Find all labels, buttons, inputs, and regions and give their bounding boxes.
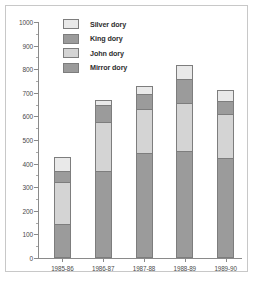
x-axis-tick-label: 1985-86 [51,265,73,272]
x-axis-line [38,258,242,259]
y-axis-tick-label: 200 [22,207,33,214]
y-axis-tick [34,164,38,165]
y-axis-tick [34,46,38,47]
bar-stack[interactable] [95,100,112,258]
y-axis-tick [34,116,38,117]
chart-legend: Silver doryKing doryJohn doryMirror dory [63,17,127,75]
legend-item-label: King dory [90,34,123,43]
legend-item-label: John dory [90,49,124,58]
y-axis-tick-label: 800 [22,66,33,73]
y-axis-minor-tick [36,152,38,153]
y-axis-minor-tick [36,175,38,176]
x-axis-tick [185,258,186,262]
x-axis-tick [144,258,145,262]
legend-item-label: Mirror dory [90,63,127,72]
y-axis-minor-tick [36,34,38,35]
x-axis-tick-label: 1986-87 [92,265,114,272]
y-axis-tick [34,140,38,141]
bar-segment[interactable] [136,153,153,258]
legend-swatch-icon [63,48,79,58]
legend-swatch-icon [63,34,79,44]
bar-segment[interactable] [54,224,71,258]
x-axis-tick-label: 1988-89 [174,265,196,272]
bar-segment[interactable] [54,182,71,223]
y-axis-minor-tick [36,199,38,200]
y-axis-tick [34,69,38,70]
y-axis-minor-tick [36,105,38,106]
bar-segment[interactable] [95,122,112,171]
bar-segment[interactable] [54,171,71,183]
bar-segment[interactable] [95,105,112,122]
y-axis-tick-label: 300 [22,184,33,191]
bar-segment[interactable] [217,90,234,101]
bar-segment[interactable] [217,101,234,114]
y-axis-tick-label: 700 [22,89,33,96]
y-axis-tick-label: 400 [22,160,33,167]
y-axis-tick [34,234,38,235]
legend-item-label: Silver dory [90,20,126,29]
y-axis-tick [34,211,38,212]
y-axis-minor-tick [36,246,38,247]
bar-stack[interactable] [136,86,153,258]
bar-segment[interactable] [176,65,193,79]
bar-segment[interactable] [136,94,153,108]
y-axis-line [38,22,39,258]
x-axis-tick [103,258,104,262]
bar-segment[interactable] [136,109,153,153]
y-axis-tick [34,187,38,188]
legend-item[interactable]: John dory [63,46,127,61]
bar-stack[interactable] [217,90,234,258]
legend-item[interactable]: Mirror dory [63,61,127,76]
bar-segment[interactable] [176,151,193,258]
y-axis-tick [34,22,38,23]
x-axis-tick [62,258,63,262]
y-axis-tick-label: 500 [22,137,33,144]
x-axis-tick-label: 1987-88 [133,265,155,272]
chart-frame: 01002003004005006007008009001000 1985-86… [5,5,248,272]
x-axis-tick-label: 1989-90 [214,265,236,272]
bar-stack[interactable] [54,157,71,258]
legend-item[interactable]: Silver dory [63,17,127,32]
y-axis-minor-tick [36,223,38,224]
y-axis-tick-label: 0 [29,255,33,262]
y-axis-tick-label: 1000 [19,19,33,26]
bar-stack[interactable] [176,65,193,258]
y-axis-tick-label: 100 [22,231,33,238]
legend-item[interactable]: King dory [63,32,127,47]
bar-segment[interactable] [176,103,193,150]
y-axis-minor-tick [36,81,38,82]
bar-segment[interactable] [217,114,234,158]
legend-swatch-icon [63,63,79,73]
bar-segment[interactable] [136,86,153,94]
bar-segment[interactable] [176,79,193,103]
y-axis-minor-tick [36,57,38,58]
bar-segment[interactable] [95,171,112,258]
legend-swatch-icon [63,19,79,29]
bar-segment[interactable] [54,157,71,171]
y-axis-tick-label: 600 [22,113,33,120]
y-axis-minor-tick [36,128,38,129]
y-axis-tick [34,93,38,94]
bar-segment[interactable] [217,158,234,258]
y-axis-tick [34,258,38,259]
y-axis-tick-label: 900 [22,42,33,49]
x-axis-tick [226,258,227,262]
